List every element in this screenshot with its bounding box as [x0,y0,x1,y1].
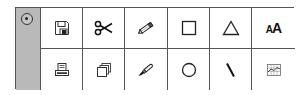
print-tool-button[interactable] [41,49,83,90]
radio-button-selected-icon[interactable] [21,13,33,25]
tool-palette: AA [15,7,294,89]
cut-tool-button[interactable] [83,8,125,49]
font-size-icon: AA [266,19,281,37]
pencil-tool-button[interactable] [125,8,168,49]
copy-stack-icon [96,62,112,78]
circle-icon [181,62,197,78]
chart-tool-button[interactable] [252,49,295,90]
text-tool-button[interactable]: AA [252,8,295,49]
scissors-cut-icon [94,20,114,36]
circle-tool-button[interactable] [168,49,210,90]
copy-tool-button[interactable] [83,49,125,90]
brush-tool-button[interactable] [125,49,168,90]
rectangle-tool-button[interactable] [168,8,210,49]
save-tool-button[interactable] [41,8,83,49]
floppy-disk-save-icon [54,20,70,36]
palette-handle[interactable] [16,8,41,90]
chart-grid-icon [267,64,281,76]
triangle-tool-button[interactable] [210,8,252,49]
pencil-icon [136,20,156,36]
line-icon [224,62,238,78]
triangle-icon [222,20,240,36]
paintbrush-icon [136,62,156,78]
rectangle-icon [181,20,197,36]
printer-icon [54,62,70,78]
line-tool-button[interactable] [210,49,252,90]
